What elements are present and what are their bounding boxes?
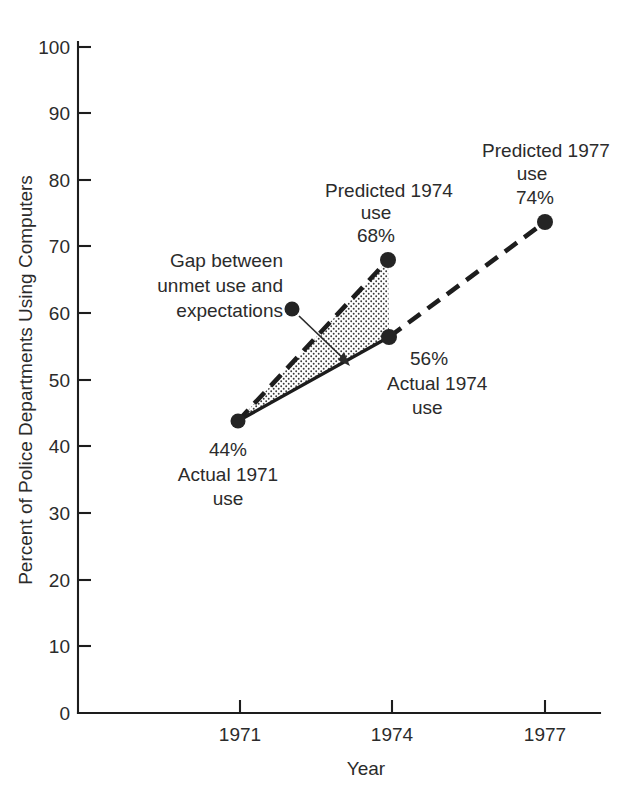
x-axis-title: Year [347,758,386,779]
y-tick-label-70: 70 [49,236,70,257]
actual-1974-label: 56% Actual 1974 use [387,348,488,418]
x-tick-label-1974: 1974 [371,724,414,745]
actual-1974-line-1: 56% [410,348,448,369]
gap-callout-line-1: Gap between [170,250,283,271]
y-tick-label-50: 50 [49,370,70,391]
predicted-1974-line-3: 68% [357,225,395,246]
x-axis [78,700,600,713]
x-tick-label-1977: 1977 [524,724,566,745]
y-tick-label-30: 30 [49,503,70,524]
predicted-1974-line-2: use [361,202,392,223]
predicted-1977-label: Predicted 1977 use 74% [482,140,610,208]
gap-callout-line-2: unmet use and [157,275,283,296]
data-point-actual-1974[interactable] [381,329,397,345]
y-tick-label-20: 20 [49,570,70,591]
actual-1974-line-2: Actual 1974 [387,373,488,394]
actual-1971-line-2: Actual 1971 [178,464,278,485]
y-tick-labels: 100 90 80 70 60 50 40 30 20 10 0 [38,37,70,724]
chart-plot-area: 100 90 80 70 60 50 40 30 20 10 0 1971 19… [0,0,622,790]
chart-container: 100 90 80 70 60 50 40 30 20 10 0 1971 19… [0,0,622,790]
y-tick-label-100: 100 [38,37,70,58]
predicted-1974-label: Predicted 1974 use 68% [325,180,453,246]
data-point-actual-1971[interactable] [231,414,246,429]
y-tick-label-80: 80 [49,170,70,191]
actual-1971-line-3: use [213,488,244,509]
predicted-1977-line-2: use [517,163,548,184]
actual-1974-line-3: use [412,397,443,418]
x-tick-label-1971: 1971 [219,724,261,745]
data-point-predicted-1977[interactable] [537,214,553,230]
predicted-1974-line-1: Predicted 1974 [325,180,453,201]
actual-1971-line-1: 44% [209,439,247,460]
gap-callout-dot-marker [285,302,300,317]
y-axis-title: Percent of Police Departments Using Comp… [15,175,36,585]
x-tick-labels: 1971 1974 1977 [219,724,566,745]
data-point-predicted-1974[interactable] [380,252,396,268]
y-axis [78,42,91,713]
predicted-line-1974-1977 [389,222,545,337]
predicted-1977-line-3: 74% [516,187,554,208]
y-tick-label-40: 40 [49,436,70,457]
y-tick-label-60: 60 [49,303,70,324]
y-tick-label-0: 0 [59,703,70,724]
gap-callout-label: Gap between unmet use and expectations [157,250,283,321]
gap-callout-line-3: expectations [176,300,283,321]
y-tick-label-10: 10 [49,636,70,657]
y-tick-label-90: 90 [49,103,70,124]
actual-1971-label: 44% Actual 1971 use [178,439,278,509]
predicted-1977-line-1: Predicted 1977 [482,140,610,161]
